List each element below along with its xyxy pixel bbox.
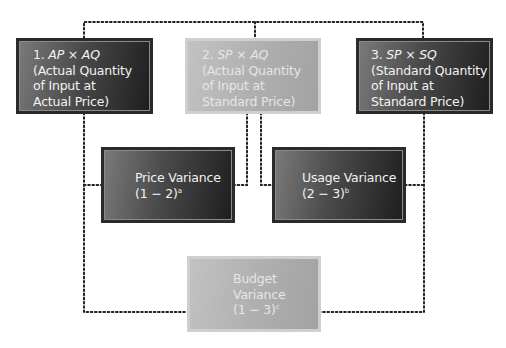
- box-price-variance: Price Variance (1 − 2)a: [101, 147, 235, 223]
- box-desc-1: (Standard Quantity: [371, 63, 487, 79]
- box-actual-quantity-standard-price: 2. SP × AQ (Actual Quantity of Input at …: [185, 38, 321, 114]
- variance-label: Price Variance: [135, 170, 221, 186]
- variance-label: Budget: [233, 271, 285, 287]
- box-desc-2: of Input at: [371, 78, 487, 94]
- box-desc-3: Standard Price): [202, 94, 301, 110]
- box-desc-2: of Input at: [33, 78, 132, 94]
- box-actual-cost: 1. AP × AQ (Actual Quantity of Input at …: [16, 38, 153, 114]
- top-connector: [84, 22, 423, 38]
- variance-formula: (2 − 3)b: [302, 186, 396, 202]
- box-desc-3: Standard Price): [371, 94, 487, 110]
- variance-label: Usage Variance: [302, 170, 396, 186]
- variance-formula: (1 − 3)c: [233, 302, 285, 318]
- box-desc-1: (Actual Quantity: [33, 63, 132, 79]
- variance-label-2: Variance: [233, 287, 285, 303]
- box-budget-variance: Budget Variance (1 − 3)c: [187, 256, 321, 332]
- box-desc-3: Actual Price): [33, 94, 132, 110]
- box-title: 1. AP × AQ: [33, 47, 132, 63]
- usage-from-box2: [261, 113, 272, 185]
- box-standard-cost: 3. SP × SQ (Standard Quantity of Input a…: [356, 38, 493, 114]
- variance-formula: (1 − 2)a: [135, 186, 221, 202]
- box-usage-variance: Usage Variance (2 − 3)b: [272, 147, 406, 223]
- variance-diagram: 1. AP × AQ (Actual Quantity of Input at …: [0, 0, 506, 348]
- price-from-box2: [235, 113, 247, 185]
- box-title: 2. SP × AQ: [202, 47, 301, 63]
- box-desc-1: (Actual Quantity: [202, 63, 301, 79]
- box-desc-2: of Input at: [202, 78, 301, 94]
- box-title: 3. SP × SQ: [371, 47, 487, 63]
